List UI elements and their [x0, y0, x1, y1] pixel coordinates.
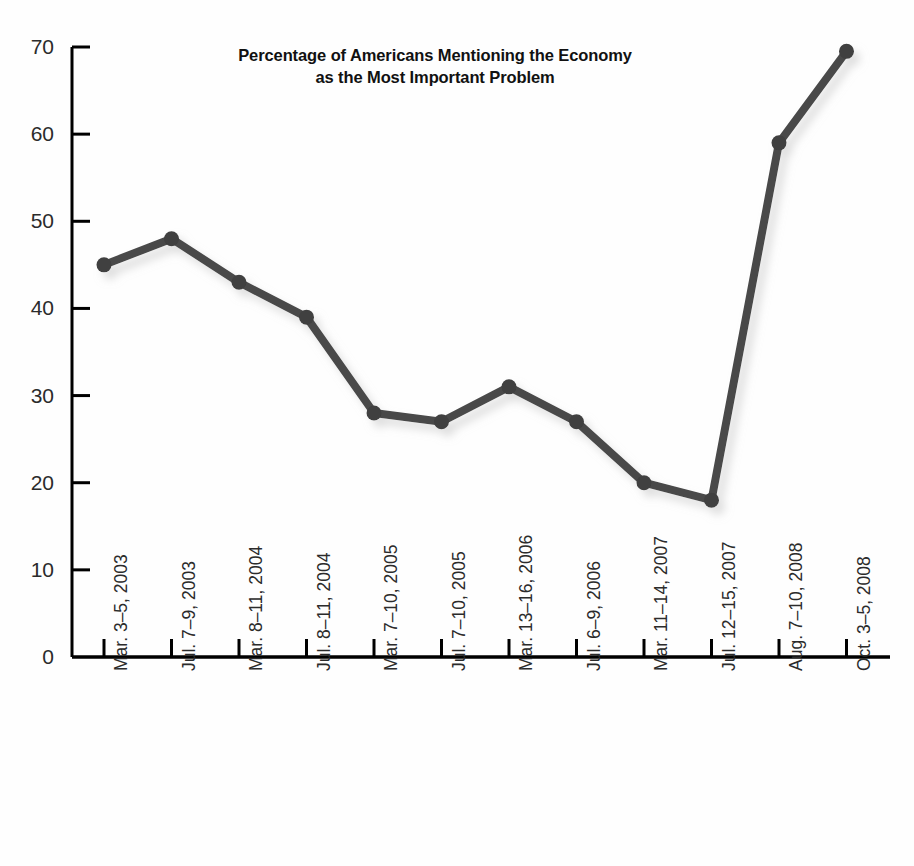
data-point: [839, 44, 854, 59]
data-point: [299, 310, 314, 325]
y-axis-tick-label: 30: [8, 385, 54, 406]
x-axis-tick-label: Oct. 3–5, 2008: [854, 556, 875, 671]
y-axis-tick-label: 50: [8, 210, 54, 231]
x-axis-tick-label: Mar. 7–10, 2005: [381, 545, 402, 671]
x-axis-tick-label: Jul. 8–11, 2004: [314, 553, 335, 671]
x-axis-tick-label: Jul. 12–15, 2007: [719, 542, 740, 671]
data-point: [569, 414, 584, 429]
y-axis-tick-label: 60: [8, 123, 54, 144]
data-point: [367, 406, 382, 421]
data-point: [502, 379, 517, 394]
series-markers: [97, 44, 855, 508]
y-axis-tick-label: 20: [8, 472, 54, 493]
data-point: [97, 257, 112, 272]
x-axis-tick-label: Mar. 13–16, 2006: [516, 535, 537, 671]
y-axis-tick-label: 0: [8, 646, 54, 667]
data-point: [434, 414, 449, 429]
x-axis-tick-label: Jul. 7–10, 2005: [449, 551, 470, 671]
data-point: [772, 135, 787, 150]
y-axis-tick-label: 70: [8, 36, 54, 57]
x-axis-tick-label: Mar. 11–14, 2007: [651, 536, 672, 671]
y-axis-tick-label: 40: [8, 297, 54, 318]
x-axis-tick-label: Mar. 8–11, 2004: [246, 546, 267, 671]
data-series-economy: [97, 44, 855, 508]
chart-figure: Percentage of Americans Mentioning the E…: [0, 0, 914, 866]
x-axis-tick-label: Aug. 7–10, 2008: [786, 543, 807, 671]
chart-plot-area: [0, 0, 914, 866]
data-point: [704, 493, 719, 508]
x-axis-tick-label: Jul. 7–9, 2003: [179, 561, 200, 671]
data-point: [164, 231, 179, 246]
data-point: [232, 275, 247, 290]
series-line: [104, 51, 847, 500]
y-axis-ticks: [72, 47, 90, 570]
y-axis-tick-label: 10: [8, 559, 54, 580]
data-point: [637, 475, 652, 490]
x-axis-tick-label: Mar. 3–5, 2003: [111, 554, 132, 671]
x-axis-tick-label: Jul. 6–9, 2006: [584, 561, 605, 671]
